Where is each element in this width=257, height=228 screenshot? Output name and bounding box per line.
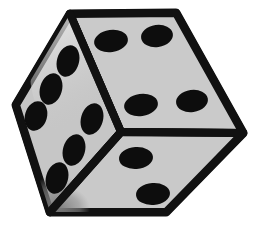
die-body <box>16 10 243 228</box>
die-illustration <box>0 0 257 228</box>
edge-center-to-right <box>121 132 243 133</box>
image-canvas: Six-sided die shown in three-quarter iso… <box>0 0 257 228</box>
